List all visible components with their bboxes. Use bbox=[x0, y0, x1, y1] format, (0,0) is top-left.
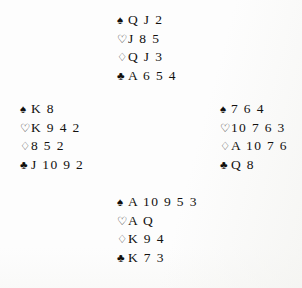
east-club-cards: Q 8 bbox=[231, 156, 255, 175]
heart-icon: ♡ bbox=[20, 119, 31, 138]
heart-icon: ♡ bbox=[117, 212, 128, 231]
west-club-cards: J 10 9 2 bbox=[31, 156, 84, 175]
north-spade-cards: Q J 2 bbox=[128, 11, 163, 30]
east-spade-cards: 7 6 4 bbox=[231, 100, 265, 119]
hand-south: ♠A 10 9 5 3 ♡A Q ♢K 9 4 ♣K 7 3 bbox=[117, 193, 198, 267]
west-diamond-cards: 8 5 2 bbox=[31, 137, 65, 156]
spade-icon: ♠ bbox=[220, 100, 231, 119]
club-icon: ♣ bbox=[117, 67, 128, 86]
north-diamond-row: ♢Q J 3 bbox=[117, 48, 177, 67]
west-spade-cards: K 8 bbox=[31, 100, 55, 119]
west-spade-row: ♠K 8 bbox=[20, 100, 84, 119]
spade-icon: ♠ bbox=[117, 193, 128, 212]
north-heart-row: ♡J 8 5 bbox=[117, 30, 177, 49]
heart-icon: ♡ bbox=[220, 119, 231, 138]
diamond-icon: ♢ bbox=[20, 137, 31, 156]
north-club-cards: A 6 5 4 bbox=[128, 67, 177, 86]
diamond-icon: ♢ bbox=[117, 48, 128, 67]
hand-west: ♠K 8 ♡K 9 4 2 ♢8 5 2 ♣J 10 9 2 bbox=[20, 100, 84, 174]
east-diamond-cards: A 10 7 6 bbox=[231, 137, 288, 156]
south-heart-row: ♡A Q bbox=[117, 212, 198, 231]
diamond-icon: ♢ bbox=[117, 230, 128, 249]
south-club-cards: K 7 3 bbox=[128, 249, 165, 268]
south-club-row: ♣K 7 3 bbox=[117, 249, 198, 268]
south-diamond-cards: K 9 4 bbox=[128, 230, 165, 249]
club-icon: ♣ bbox=[20, 156, 31, 175]
north-spade-row: ♠Q J 2 bbox=[117, 11, 177, 30]
hand-east: ♠7 6 4 ♡10 7 6 3 ♢A 10 7 6 ♣Q 8 bbox=[220, 100, 288, 174]
east-club-row: ♣Q 8 bbox=[220, 156, 288, 175]
hand-north: ♠Q J 2 ♡J 8 5 ♢Q J 3 ♣A 6 5 4 bbox=[117, 11, 177, 85]
diamond-icon: ♢ bbox=[220, 137, 231, 156]
south-spade-cards: A 10 9 5 3 bbox=[128, 193, 198, 212]
east-spade-row: ♠7 6 4 bbox=[220, 100, 288, 119]
west-diamond-row: ♢8 5 2 bbox=[20, 137, 84, 156]
west-club-row: ♣J 10 9 2 bbox=[20, 156, 84, 175]
east-diamond-row: ♢A 10 7 6 bbox=[220, 137, 288, 156]
club-icon: ♣ bbox=[220, 156, 231, 175]
east-heart-cards: 10 7 6 3 bbox=[231, 119, 286, 138]
spade-icon: ♠ bbox=[20, 100, 31, 119]
north-heart-cards: J 8 5 bbox=[128, 30, 160, 49]
north-diamond-cards: Q J 3 bbox=[128, 48, 163, 67]
south-spade-row: ♠A 10 9 5 3 bbox=[117, 193, 198, 212]
spade-icon: ♠ bbox=[117, 11, 128, 30]
west-heart-row: ♡K 9 4 2 bbox=[20, 119, 84, 138]
bridge-hand-diagram: ♠Q J 2 ♡J 8 5 ♢Q J 3 ♣A 6 5 4 ♠K 8 ♡K 9 … bbox=[0, 0, 302, 288]
east-heart-row: ♡10 7 6 3 bbox=[220, 119, 288, 138]
club-icon: ♣ bbox=[117, 249, 128, 268]
heart-icon: ♡ bbox=[117, 30, 128, 49]
west-heart-cards: K 9 4 2 bbox=[31, 119, 81, 138]
north-club-row: ♣A 6 5 4 bbox=[117, 67, 177, 86]
south-diamond-row: ♢K 9 4 bbox=[117, 230, 198, 249]
south-heart-cards: A Q bbox=[128, 212, 154, 231]
